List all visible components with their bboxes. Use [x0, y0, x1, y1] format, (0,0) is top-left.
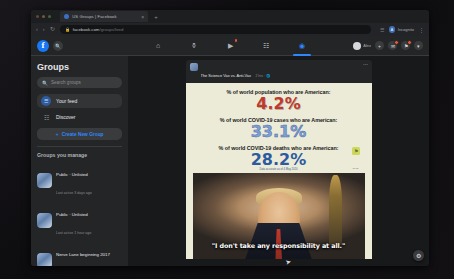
close-tab-icon[interactable]: × [141, 14, 144, 20]
browser-tab[interactable]: US Groups | Facebook × [60, 11, 148, 22]
url-path: /groups/feed [99, 27, 123, 32]
watch-badge [234, 38, 239, 43]
group-thumbnail [37, 213, 52, 228]
post-group-name[interactable]: The Science Vax vs. Anti-Vax [201, 73, 251, 78]
plus-icon: + [55, 131, 58, 137]
groups-feed: The Science Vax vs. Anti-Vax 2 hrs · 🌐 ⋯… [128, 56, 429, 266]
create-group-label: Create New Group [62, 132, 104, 137]
messenger-button[interactable]: ✉ [388, 41, 397, 50]
close-window-icon[interactable] [36, 15, 39, 18]
group-thumbnail [37, 173, 52, 188]
maximize-window-icon[interactable] [48, 15, 51, 18]
search-groups-input[interactable]: 🔍 Search groups [37, 77, 122, 88]
sidebar-item-label: Your feed [56, 98, 77, 104]
infographic-data-note: Data accurate as of 4 May 2020 [193, 168, 365, 171]
group-name: Public · Unlisted [56, 212, 88, 217]
groups-you-manage-heading: Groups you manage [37, 152, 122, 158]
sidebar-item-your-feed[interactable]: ☰ Your feed [37, 94, 122, 108]
flag-decoration [329, 175, 342, 246]
browser-window: US Groups | Facebook × + ‹ › ↻ 🔒 faceboo… [31, 10, 429, 266]
browser-tab-strip: US Groups | Facebook × + [31, 10, 429, 23]
reload-icon[interactable]: ↻ [50, 27, 55, 33]
group-name: Public · Unlisted [56, 172, 88, 177]
lock-icon: 🔒 [65, 27, 70, 32]
address-bar[interactable]: 🔒 facebook.com/groups/feed [60, 25, 371, 34]
forward-icon[interactable]: › [43, 27, 45, 33]
profile-name: Incognito [398, 27, 414, 32]
notifications-button[interactable]: ⚑ [401, 41, 410, 50]
photo-quote: "I don't take any responsibility at all.… [193, 242, 365, 250]
extensions-icon[interactable]: ☰ [380, 27, 384, 33]
nav-home-icon[interactable]: ⌂ [151, 39, 165, 52]
tab-title: US Groups | Facebook [72, 14, 117, 19]
nav-watch-icon[interactable]: ▶ [223, 39, 237, 52]
account-name: Alex [363, 43, 371, 48]
post-group-avatar[interactable] [190, 63, 198, 71]
nav-marketplace-icon[interactable]: ☷ [259, 39, 273, 52]
nav-friends-icon[interactable]: ⚱ [187, 39, 201, 52]
facebook-favicon [64, 14, 69, 19]
facebook-app: f 🔍 ⌂ ⚱ ▶ ☷ ◉ Alex [31, 36, 429, 266]
sidebar-title: Groups [37, 62, 122, 72]
account-profile-button[interactable]: Alex [353, 42, 371, 50]
trump-photo: "I don't take any responsibility at all.… [193, 173, 365, 259]
list-item[interactable]: Public · Unlisted Last active 3 days ago [37, 162, 122, 198]
minimize-window-icon[interactable] [42, 15, 45, 18]
feed-icon: ☰ [41, 96, 51, 106]
nav-groups-icon[interactable]: ◉ [295, 39, 309, 52]
messenger-badge [394, 40, 399, 45]
who-logo-icon: ⚑ [352, 147, 360, 155]
group-thumbnail [37, 253, 52, 267]
back-icon[interactable]: ‹ [36, 27, 38, 33]
facebook-account-nav: Alex + ✉ ⚑ ▾ [353, 41, 423, 50]
browser-profile-button[interactable]: A Incognito [389, 26, 414, 33]
group-subtext: Last active 3 days ago [56, 191, 92, 195]
facebook-main-nav: ⌂ ⚱ ▶ ☷ ◉ [151, 39, 309, 52]
account-menu-button[interactable]: ▾ [414, 41, 423, 50]
groups-sidebar: Groups 🔍 Search groups ☰ Your feed ☷ Dis… [31, 56, 128, 266]
watch-glyph: ▶ [228, 42, 233, 50]
notifications-badge [407, 40, 412, 45]
new-tab-icon[interactable]: + [154, 14, 158, 20]
sidebar-divider [37, 146, 122, 147]
infographic-stat-1: 4.2% [193, 96, 365, 113]
list-item[interactable]: Nerve Lane beginning 2017 Last active 2 … [37, 242, 122, 266]
group-name: Nerve Lane beginning 2017 [56, 252, 110, 257]
feed-post: The Science Vax vs. Anti-Vax 2 hrs · 🌐 ⋯… [186, 60, 372, 259]
group-subtext: Last active 1 hour ago [56, 231, 91, 235]
post-header: The Science Vax vs. Anti-Vax 2 hrs · 🌐 ⋯ [186, 60, 372, 83]
discover-icon: ☷ [41, 112, 51, 122]
window-controls[interactable] [31, 15, 51, 18]
screenshot-root: US Groups | Facebook × + ‹ › ↻ 🔒 faceboo… [0, 0, 454, 279]
group-meta: Public · Unlisted Last active 3 days ago [56, 162, 122, 198]
create-button[interactable]: + [375, 41, 384, 50]
search-placeholder: Search groups [51, 80, 81, 85]
facebook-logo-icon[interactable]: f [37, 40, 49, 52]
search-icon[interactable]: 🔍 [53, 41, 63, 51]
post-menu-icon[interactable]: ⋯ [363, 63, 368, 66]
floating-action-button[interactable]: ⚙ [413, 250, 424, 261]
list-item[interactable]: Public · Unlisted Last active 1 hour ago [37, 202, 122, 238]
address-text: facebook.com/groups/feed [73, 27, 124, 32]
who-logo-text: WHO [353, 167, 359, 170]
post-meta: The Science Vax vs. Anti-Vax 2 hrs · 🌐 [201, 63, 270, 81]
search-icon: 🔍 [42, 80, 48, 86]
source-logo: ⚑ WHO [349, 147, 363, 173]
facebook-body: Groups 🔍 Search groups ☰ Your feed ☷ Dis… [31, 56, 429, 266]
facebook-top-bar: f 🔍 ⌂ ⚱ ▶ ☷ ◉ Alex [31, 36, 429, 56]
toolbar-actions: ☰ A Incognito ⋮ [380, 26, 424, 33]
infographic-stat-3: 28.2% [193, 152, 365, 169]
profile-avatar-icon: A [389, 26, 396, 33]
sidebar-item-label: Discover [56, 114, 75, 120]
create-new-group-button[interactable]: + Create New Group [37, 128, 122, 140]
browser-toolbar: ‹ › ↻ 🔒 facebook.com/groups/feed ☰ A Inc… [31, 23, 429, 36]
avatar [353, 42, 361, 50]
browser-menu-icon[interactable]: ⋮ [419, 27, 424, 33]
infographic-stat-2: 33.1% [193, 124, 365, 141]
group-meta: Public · Unlisted Last active 1 hour ago [56, 202, 122, 238]
sidebar-item-discover[interactable]: ☷ Discover [37, 110, 122, 124]
covid-infographic: % of world population who are American: … [186, 83, 372, 259]
group-meta: Nerve Lane beginning 2017 Last active 2 … [56, 242, 122, 266]
post-timestamp: 2 hrs · 🌐 [255, 74, 270, 78]
url-domain: facebook.com [73, 27, 100, 32]
